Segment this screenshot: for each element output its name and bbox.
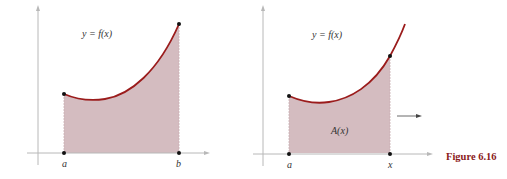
right-arrowhead-icon (416, 114, 422, 118)
left-label-a: a (62, 158, 67, 169)
right-y-axis-arrowhead-icon (261, 5, 265, 11)
figure-caption: Figure 6.16 (446, 151, 497, 162)
right-point-a (287, 152, 291, 156)
left-point-curve-a (62, 92, 66, 96)
left-point-curve-b (177, 22, 181, 26)
left-y-axis-arrowhead-icon (36, 5, 40, 11)
right-x-axis-arrowhead-icon (427, 152, 433, 156)
right-area-label: A(x) (330, 125, 349, 137)
right-panel: y = f(x) A(x) a x (253, 5, 433, 170)
right-point-x (388, 152, 392, 156)
right-shaded-area (289, 56, 390, 153)
left-panel: y = f(x) a b (27, 5, 210, 169)
figure-canvas: y = f(x) a b y = f(x) A(x) a x Figure 6.… (0, 0, 507, 179)
left-x-axis-arrowhead-icon (204, 151, 210, 155)
right-label-x: x (387, 159, 393, 170)
right-curve-label: y = f(x) (311, 29, 343, 41)
right-point-curve-x (388, 54, 392, 58)
left-point-b (177, 151, 181, 155)
left-curve-label: y = f(x) (81, 28, 113, 40)
left-label-b: b (176, 158, 181, 169)
left-shaded-area (64, 24, 179, 153)
right-point-curve-a (287, 94, 291, 98)
left-point-a (62, 151, 66, 155)
right-label-a: a (287, 159, 292, 170)
